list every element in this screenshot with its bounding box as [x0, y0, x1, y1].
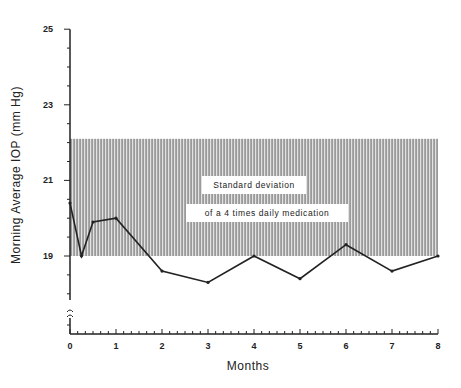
data-point [206, 281, 209, 284]
band-label-line1: Standard deviation [213, 180, 295, 190]
data-point [91, 220, 94, 223]
data-point [298, 277, 301, 280]
y-tick-labels: 19212325 [43, 24, 53, 261]
y-axis-break-icon [67, 310, 73, 317]
x-tick-label: 5 [297, 341, 302, 351]
data-point [436, 254, 439, 257]
x-tick-label: 2 [159, 341, 164, 351]
x-tick-label: 8 [435, 341, 440, 351]
x-tick-label: 3 [205, 341, 210, 351]
x-tick-label: 7 [389, 341, 394, 351]
x-tick-label: 0 [67, 341, 72, 351]
band-label-line2: of a 4 times daily medication [205, 208, 330, 218]
data-point [252, 254, 255, 257]
x-tick-labels: 012345678 [67, 341, 440, 351]
x-tick-label: 1 [113, 341, 118, 351]
y-axis-title: Morning Average IOP (mm Hg) [9, 86, 23, 264]
band-fill [70, 139, 438, 256]
iop-line-chart: Standard deviation of a 4 times daily me… [0, 0, 461, 388]
x-axis [70, 329, 438, 334]
y-tick-label: 25 [43, 24, 53, 34]
data-point [390, 270, 393, 273]
data-point [114, 217, 117, 220]
x-axis-title: Months [227, 359, 269, 373]
data-point [160, 270, 163, 273]
y-tick-label: 23 [43, 100, 53, 110]
data-point [80, 254, 83, 257]
data-point [68, 201, 71, 204]
x-tick-label: 4 [251, 341, 256, 351]
y-tick-label: 21 [43, 175, 53, 185]
std-deviation-band [70, 139, 438, 256]
y-tick-label: 19 [43, 251, 53, 261]
data-point [344, 243, 347, 246]
x-tick-label: 6 [343, 341, 348, 351]
